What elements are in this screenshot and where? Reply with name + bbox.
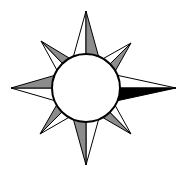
north-point-half-a <box>73 11 86 58</box>
compass-center-circle <box>52 54 120 122</box>
west-point-half-a <box>11 88 56 101</box>
east-point-half-a <box>116 75 176 88</box>
south-point-half-a <box>86 118 99 165</box>
compass-rose-figure <box>0 0 187 174</box>
south-point-half-b <box>73 118 86 165</box>
east-point-half-b <box>116 88 176 101</box>
compass-rose-icon <box>0 0 187 174</box>
north-point-half-b <box>86 11 99 58</box>
west-point-half-b <box>11 75 56 88</box>
